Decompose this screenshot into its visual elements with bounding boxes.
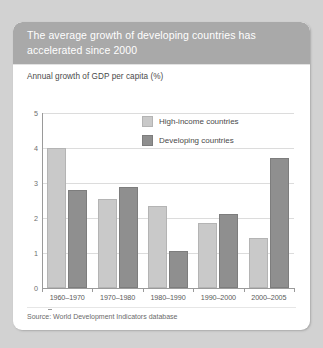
x-tick-mark <box>193 288 194 292</box>
page-root: The average growth of developing countri… <box>0 0 323 348</box>
bar <box>249 238 268 288</box>
y-tick-label: 2 <box>24 214 38 223</box>
bar <box>119 187 138 288</box>
bar <box>169 251 188 288</box>
legend-item-developing: Developing countries <box>142 133 239 148</box>
bar <box>219 214 238 288</box>
legend-label-high-income: High-income countries <box>159 117 239 126</box>
y-tick-label: 1 <box>24 249 38 258</box>
bar <box>270 158 289 288</box>
bar <box>98 199 117 288</box>
bar <box>68 190 87 288</box>
chart-card: The average growth of developing countri… <box>13 22 310 330</box>
y-tick-label: 5 <box>24 109 38 118</box>
x-tick-mark <box>92 288 93 292</box>
x-tick-mark <box>294 288 295 292</box>
y-tick-label: 4 <box>24 144 38 153</box>
chart-plot-area: 012345 1960–19701970–19801980–19901990–2… <box>13 22 310 330</box>
bar <box>148 206 167 288</box>
bar <box>47 148 66 288</box>
legend-label-developing: Developing countries <box>159 136 234 145</box>
x-tick-mark <box>244 288 245 292</box>
legend-item-high-income: High-income countries <box>142 114 239 129</box>
legend-swatch-high-income-icon <box>142 116 153 127</box>
x-tick-label: 1960–1970 <box>42 293 92 302</box>
x-tick-label: 2000–2005 <box>244 293 294 302</box>
legend-swatch-developing-icon <box>142 135 153 146</box>
x-tick-mark <box>42 288 43 292</box>
x-tick-mark <box>143 288 144 292</box>
y-tick-label: 0 <box>24 284 38 293</box>
x-axis-line <box>42 288 295 289</box>
x-tick-label: 1970–1980 <box>92 293 142 302</box>
x-tick-label: 1990–2000 <box>193 293 243 302</box>
y-axis-labels: 012345 <box>22 113 38 289</box>
y-tick-mark <box>48 309 52 310</box>
source-divider <box>27 307 296 308</box>
bar <box>198 223 217 288</box>
chart-legend: High-income countries Developing countri… <box>142 114 239 152</box>
y-tick-label: 3 <box>24 179 38 188</box>
chart-source: Source: World Development Indicators dat… <box>27 313 177 320</box>
x-tick-label: 1980–1990 <box>143 293 193 302</box>
